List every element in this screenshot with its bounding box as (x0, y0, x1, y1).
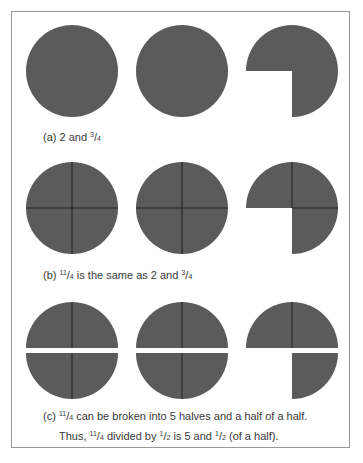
halved-circle-c2 (136, 302, 228, 399)
caption-c2-middle: divided by (107, 430, 157, 442)
half-and-quarter-c3 (246, 302, 338, 399)
row-c-shapes (26, 302, 338, 399)
row-a-shapes (26, 25, 338, 117)
fraction-eleven-quarters: 11/4 (59, 410, 73, 422)
caption-a-text: (a) 2 and (43, 131, 87, 143)
caption-c2-prefix: Thus, (59, 430, 87, 442)
caption-b: (b) 11/4 is the same as 2 and 3/4 (43, 266, 192, 283)
whole-circle-a1 (26, 25, 118, 117)
quartered-circle-b1 (26, 162, 118, 254)
caption-c-prefix: (c) (43, 410, 56, 422)
caption-c2-suffix: (of a half). (229, 430, 279, 442)
quartered-circle-b2 (136, 162, 228, 254)
halved-circle-c1 (26, 302, 118, 399)
caption-b-prefix: (b) (43, 269, 56, 281)
fraction-three-quarters: 3/4 (90, 131, 101, 143)
fraction-eleven-quarters: 11/4 (60, 269, 74, 281)
caption-c-line1: (c) 11/4 can be broken into 5 halves and… (43, 407, 307, 424)
three-quarters-b3 (246, 162, 338, 254)
fraction-eleven-quarters: 11/4 (90, 430, 104, 442)
caption-c2-middle2: is 5 and (173, 430, 212, 442)
caption-b-middle: is the same as 2 and (77, 269, 179, 281)
caption-c-suffix: can be broken into 5 halves and a half o… (76, 410, 307, 422)
whole-circle-a2 (136, 25, 228, 117)
fraction-one-half: 1/2 (160, 430, 171, 442)
caption-c-line2: Thus, 11/4 divided by 1/2 is 5 and 1/2 (… (59, 427, 279, 444)
three-quarter-circle-a3 (246, 25, 338, 117)
fraction-one-half: 1/2 (215, 430, 226, 442)
row-b-shapes (26, 162, 338, 254)
caption-a: (a) 2 and 3/4 (43, 128, 101, 145)
fraction-diagram (0, 0, 363, 463)
fraction-three-quarters: 3/4 (181, 269, 192, 281)
